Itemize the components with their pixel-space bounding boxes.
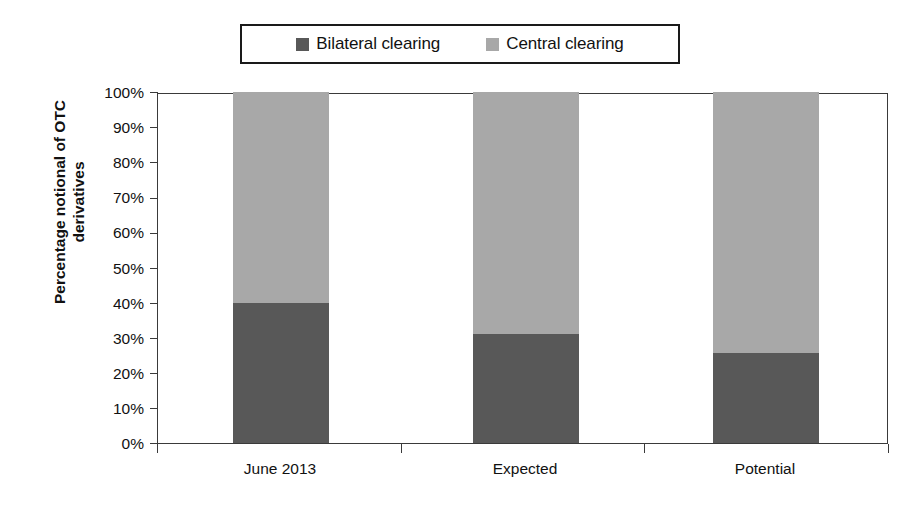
x-axis-tick-mark [888,444,889,453]
bar-segment-central-clearing[interactable] [233,92,329,303]
bar-segment-bilateral-clearing[interactable] [233,303,329,443]
legend-label-bilateral: Bilateral clearing [316,34,440,54]
y-axis-tick-label: 10% [74,400,144,418]
x-axis-category-label: Expected [493,460,558,478]
bar-segment-central-clearing[interactable] [713,92,819,353]
y-axis-tick-label: 60% [74,224,144,242]
stacked-bar[interactable] [233,92,329,443]
y-axis-tick-label: 90% [74,119,144,137]
y-axis-tick-label: 40% [74,295,144,313]
y-axis-tick-label: 80% [74,154,144,172]
legend-entry-central-clearing: Central clearing [486,34,623,54]
x-axis-tick-mark [401,444,402,453]
y-axis-title-line-1: Percentage notional of OTC [51,100,68,304]
legend-label-central: Central clearing [506,34,623,54]
bar-segment-bilateral-clearing[interactable] [473,334,579,443]
y-axis-tick-label: 70% [74,189,144,207]
legend-swatch-icon-bilateral [296,38,309,51]
plot-area [157,93,888,444]
x-axis-category-label: June 2013 [244,460,316,478]
bar-segment-central-clearing[interactable] [473,92,579,334]
x-axis-tick-mark [157,444,158,453]
stacked-bar-chart-figure: Bilateral clearing Central clearing Perc… [0,0,908,506]
y-axis-tick-label: 0% [74,435,144,453]
y-axis-tick-label: 20% [74,365,144,383]
legend-entry-bilateral-clearing: Bilateral clearing [296,34,440,54]
stacked-bar[interactable] [713,92,819,443]
y-axis-tick-label: 50% [74,260,144,278]
chart-legend: Bilateral clearing Central clearing [240,24,680,64]
x-axis-category-label: Potential [735,460,795,478]
x-axis-tick-mark [644,444,645,453]
stacked-bar[interactable] [473,92,579,443]
y-axis-tick-label: 30% [74,330,144,348]
bar-segment-bilateral-clearing[interactable] [713,353,819,443]
legend-swatch-icon-central [486,38,499,51]
y-axis-tick-label: 100% [74,84,144,102]
